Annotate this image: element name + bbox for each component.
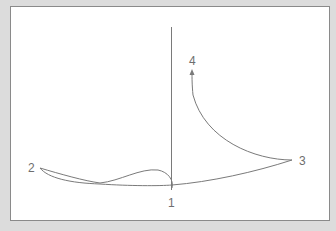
point-label-4: 4 bbox=[189, 55, 196, 67]
point-label-3: 3 bbox=[299, 155, 306, 167]
point-label-1: 1 bbox=[168, 197, 175, 209]
arrowhead-icon bbox=[190, 69, 195, 75]
curve-3-to-4 bbox=[192, 72, 292, 160]
curve-2-to-1-hump bbox=[40, 168, 172, 188]
point-label-2: 2 bbox=[28, 162, 35, 174]
